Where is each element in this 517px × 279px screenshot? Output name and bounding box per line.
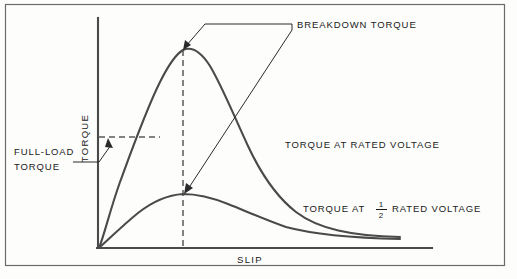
half-voltage-curve-label-prefix: TORQUE AT <box>303 203 365 214</box>
rated-voltage-curve-label: TORQUE AT RATED VOLTAGE <box>285 139 440 150</box>
y-axis-label: TORQUE <box>79 114 90 162</box>
figure-page: BREAKDOWN TORQUE FULL-LOAD TORQUE TORQUE… <box>0 0 517 279</box>
breakdown-leader-branch-upper <box>186 24 205 46</box>
full-load-leader-diagonal <box>99 145 111 162</box>
full-load-torque-label-line1: FULL-LOAD <box>14 146 74 157</box>
half-voltage-fraction-numerator: 1 <box>379 200 384 209</box>
breakdown-arrowhead-lower <box>184 183 193 194</box>
full-load-arrowhead <box>105 138 113 148</box>
torque-slip-diagram: BREAKDOWN TORQUE FULL-LOAD TORQUE TORQUE… <box>0 0 517 279</box>
x-axis-label: SLIP <box>237 254 263 265</box>
half-voltage-curve-label-suffix: RATED VOLTAGE <box>392 203 481 214</box>
half-voltage-fraction-denominator: 2 <box>379 211 384 220</box>
full-load-torque-label-line2: TORQUE <box>14 161 60 172</box>
breakdown-torque-label: BREAKDOWN TORQUE <box>297 19 417 30</box>
breakdown-leader-branch-lower <box>190 30 292 186</box>
